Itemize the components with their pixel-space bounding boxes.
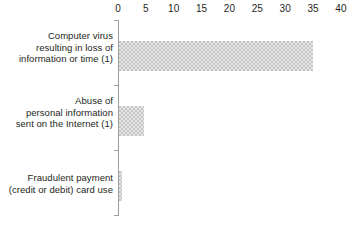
x-tick-label-4: 20 xyxy=(218,3,242,15)
x-tick-label-7: 35 xyxy=(301,3,325,15)
category-label-1: Abuse of personal information sent on th… xyxy=(1,95,113,130)
bar-0 xyxy=(119,41,313,71)
bar-2 xyxy=(119,171,122,201)
category-label-2-line-0: Fraudulent payment xyxy=(1,172,113,184)
plot-area xyxy=(118,20,341,216)
y-axis-tick-1 xyxy=(114,85,118,86)
x-tick-label-3: 15 xyxy=(190,3,214,15)
category-label-0-line-2: information or time (1) xyxy=(1,53,113,65)
category-label-1-line-2: sent on the Internet (1) xyxy=(1,118,113,130)
bar-1 xyxy=(119,106,144,136)
x-tick-label-6: 30 xyxy=(273,3,297,15)
x-axis-tick-labels: 0 5 10 15 20 25 30 35 40 xyxy=(0,0,351,20)
x-tick-label-2: 10 xyxy=(162,3,186,15)
category-label-2: Fraudulent payment (credit or debit) car… xyxy=(1,172,113,195)
x-tick-label-0: 0 xyxy=(106,3,130,15)
bar-chart: 0 5 10 15 20 25 30 35 40 Computer virus … xyxy=(0,0,351,226)
x-tick-label-5: 25 xyxy=(245,3,269,15)
category-label-0: Computer virus resulting in loss of info… xyxy=(1,30,113,65)
y-axis-tick-0 xyxy=(114,20,118,21)
y-axis-tick-3 xyxy=(114,215,118,216)
x-tick-label-1: 5 xyxy=(134,3,158,15)
category-label-0-line-1: resulting in loss of xyxy=(1,42,113,54)
y-axis-tick-2 xyxy=(114,150,118,151)
category-label-0-line-0: Computer virus xyxy=(1,30,113,42)
category-label-1-line-1: personal information xyxy=(1,107,113,119)
x-tick-label-8: 40 xyxy=(329,3,351,15)
category-label-2-line-1: (credit or debit) card use xyxy=(1,184,113,196)
category-label-1-line-0: Abuse of xyxy=(1,95,113,107)
